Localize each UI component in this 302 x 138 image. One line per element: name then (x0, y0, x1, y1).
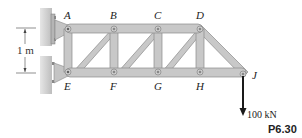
joint-label-j: J (252, 70, 257, 81)
load-arrow (240, 76, 247, 116)
dimension-label: 1 m (17, 45, 34, 56)
joint-label-g: G (154, 81, 162, 92)
joint-label-d: D (196, 10, 204, 21)
problem-number: P6.30 (268, 124, 297, 135)
joint-label-b: B (110, 10, 117, 21)
joint-label-c: C (154, 10, 161, 21)
load-label: 100 kN (247, 110, 277, 120)
truss-members (64, 24, 248, 77)
joint-label-f: F (110, 81, 117, 92)
joint-label-h: H (196, 81, 204, 92)
joint-label-a: A (64, 10, 71, 21)
joint-label-e: E (64, 81, 71, 92)
